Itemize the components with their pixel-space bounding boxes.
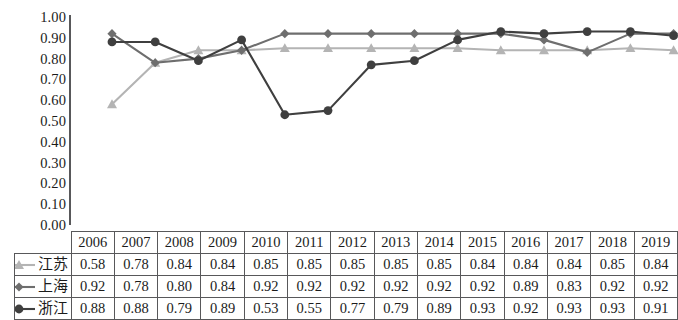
table-header-year: 2018	[591, 232, 634, 254]
table-cell-value: 0.85	[331, 254, 374, 276]
data-table: 2006200720082009201020112012201320142015…	[14, 231, 678, 320]
legend-entry-浙江[interactable]: 浙江	[15, 298, 72, 320]
table-header-year: 2009	[201, 232, 244, 254]
table-cell-value: 0.79	[158, 298, 201, 320]
table-header-year: 2010	[244, 232, 287, 254]
data-point-marker	[410, 56, 419, 65]
table-header-year: 2017	[547, 232, 590, 254]
table-row: 上海0.920.780.800.840.920.920.920.920.920.…	[15, 276, 678, 298]
table-corner-cell	[15, 232, 72, 254]
data-point-marker	[280, 29, 289, 38]
data-point-marker	[151, 38, 160, 47]
table-cell-value: 0.85	[288, 254, 331, 276]
data-point-marker	[108, 38, 117, 47]
table-cell-value: 0.77	[331, 298, 374, 320]
legend-entry-上海[interactable]: 上海	[15, 276, 72, 298]
table-cell-value: 0.84	[461, 254, 504, 276]
table-cell-value: 0.84	[634, 254, 677, 276]
legend-swatch	[15, 280, 36, 294]
table-cell-value: 0.80	[158, 276, 201, 298]
data-point-marker	[669, 31, 678, 40]
table-cell-value: 0.53	[244, 298, 287, 320]
table-cell-value: 0.78	[114, 254, 157, 276]
data-point-marker	[367, 29, 376, 38]
series-line	[112, 32, 674, 115]
table-body: 江苏0.580.780.840.840.850.850.850.850.850.…	[15, 254, 678, 320]
table-cell-value: 0.92	[418, 276, 461, 298]
legend-marker-icon	[15, 280, 36, 294]
legend-label: 上海	[38, 279, 68, 295]
table-header-year: 2019	[634, 232, 677, 254]
data-point-marker	[15, 304, 23, 313]
data-point-marker	[583, 27, 592, 36]
table-header-row: 2006200720082009201020112012201320142015…	[15, 232, 678, 254]
table-cell-value: 0.84	[201, 254, 244, 276]
table-cell-value: 0.89	[418, 298, 461, 320]
legend-swatch	[15, 258, 36, 272]
data-point-marker	[15, 282, 24, 291]
legend-swatch	[15, 302, 36, 316]
table-cell-value: 0.84	[547, 254, 590, 276]
table-cell-value: 0.92	[71, 276, 114, 298]
table-cell-value: 0.93	[591, 298, 634, 320]
plot-area: 0.000.100.200.300.400.500.600.700.800.90…	[0, 0, 678, 232]
legend-label: 江苏	[38, 257, 68, 273]
data-point-marker	[323, 29, 332, 38]
data-point-marker	[237, 35, 246, 44]
table-cell-value: 0.78	[114, 276, 157, 298]
table-cell-value: 0.93	[547, 298, 590, 320]
table-cell-value: 0.92	[331, 276, 374, 298]
table-header-year: 2013	[374, 232, 417, 254]
table-header-year: 2008	[158, 232, 201, 254]
plot-svg	[0, 0, 678, 232]
table-cell-value: 0.92	[634, 276, 677, 298]
table-cell-value: 0.92	[244, 276, 287, 298]
legend-entry-江苏[interactable]: 江苏	[15, 254, 72, 276]
table-header-year: 2006	[71, 232, 114, 254]
legend-label: 浙江	[38, 301, 68, 317]
table-cell-value: 0.83	[547, 276, 590, 298]
data-point-marker	[280, 110, 289, 119]
series-1	[107, 43, 678, 108]
table-cell-value: 0.93	[461, 298, 504, 320]
legend-marker-icon	[15, 258, 36, 272]
table-cell-value: 0.89	[504, 276, 547, 298]
data-point-marker	[367, 60, 376, 69]
data-point-marker	[410, 29, 419, 38]
table-row: 浙江0.880.880.790.890.530.550.770.790.890.…	[15, 298, 678, 320]
table-cell-value: 0.92	[374, 276, 417, 298]
table-header-year: 2007	[114, 232, 157, 254]
table-cell-value: 0.85	[374, 254, 417, 276]
legend-marker-icon	[15, 302, 36, 316]
data-point-marker	[626, 27, 635, 36]
data-point-marker	[540, 29, 549, 38]
table-cell-value: 0.85	[244, 254, 287, 276]
data-point-marker	[324, 106, 333, 115]
table-cell-value: 0.92	[591, 276, 634, 298]
data-point-marker	[453, 35, 462, 44]
table-cell-value: 0.55	[288, 298, 331, 320]
table-header-year: 2015	[461, 232, 504, 254]
table-cell-value: 0.85	[591, 254, 634, 276]
data-series-group	[107, 27, 678, 119]
table-cell-value: 0.88	[114, 298, 157, 320]
table-cell-value: 0.91	[634, 298, 677, 320]
table-header-year: 2012	[331, 232, 374, 254]
table-cell-value: 0.92	[288, 276, 331, 298]
table-cell-value: 0.58	[71, 254, 114, 276]
table-cell-value: 0.84	[158, 254, 201, 276]
series-3	[108, 27, 678, 119]
table-cell-value: 0.85	[418, 254, 461, 276]
data-point-marker	[496, 27, 505, 36]
table-cell-value: 0.88	[71, 298, 114, 320]
table-cell-value: 0.92	[504, 298, 547, 320]
table-row: 江苏0.580.780.840.840.850.850.850.850.850.…	[15, 254, 678, 276]
table-header-year: 2014	[418, 232, 461, 254]
table-cell-value: 0.89	[201, 298, 244, 320]
table-cell-value: 0.84	[201, 276, 244, 298]
table-cell-value: 0.92	[461, 276, 504, 298]
table-cell-value: 0.84	[504, 254, 547, 276]
table-cell-value: 0.79	[374, 298, 417, 320]
table-header-year: 2016	[504, 232, 547, 254]
